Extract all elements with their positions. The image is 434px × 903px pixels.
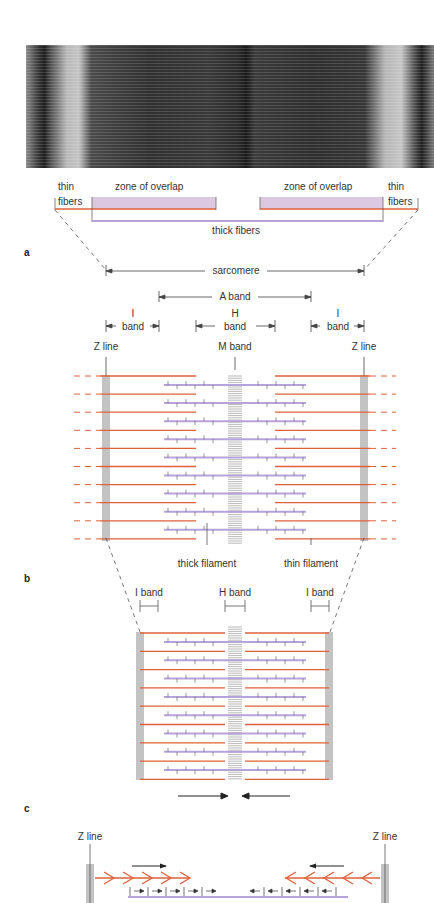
label-c-i-band-right: I band — [306, 587, 334, 598]
label-i-band-left-1: I — [132, 308, 135, 319]
label-thin-fibers-left-1: thin — [58, 181, 74, 192]
label-i-band-left-2: band — [122, 321, 144, 332]
label-d-z-line-left: Z line — [78, 831, 102, 842]
panel-letter-c: c — [24, 803, 30, 814]
label-z-line-right: Z line — [352, 341, 376, 352]
label-thick-fibers: thick fibers — [212, 225, 260, 236]
label-sarcomere: sarcomere — [212, 265, 259, 276]
label-thin-fibers-right-1: thin — [388, 181, 404, 192]
panel-letter-b: b — [24, 573, 30, 584]
label-m-band: M band — [218, 341, 251, 352]
label-a-band: A band — [219, 291, 250, 302]
label-zone-of-overlap-left: zone of overlap — [115, 181, 183, 192]
panel-d — [86, 844, 389, 903]
contraction-arrows — [178, 793, 290, 799]
label-thick-filament: thick filament — [178, 558, 236, 569]
label-c-i-band-left: I band — [135, 587, 163, 598]
label-h-band-2: band — [224, 321, 246, 332]
label-i-band-right-1: I — [337, 308, 340, 319]
label-c-h-band: H band — [219, 587, 251, 598]
label-thin-fibers-left-2: fibers — [58, 196, 82, 207]
sarcomere-figure: a b c thin fibers zone of overlap zone o… — [0, 0, 434, 903]
label-thin-filament: thin filament — [284, 558, 338, 569]
label-z-line-left: Z line — [94, 341, 118, 352]
panel-c-filaments — [136, 627, 333, 779]
label-d-z-line-right: Z line — [373, 831, 397, 842]
label-h-band-1: H — [231, 308, 238, 319]
diagram-graphics — [0, 0, 434, 903]
label-i-band-right-2: band — [327, 321, 349, 332]
panel-letter-a: a — [24, 247, 30, 258]
label-zone-of-overlap-right: zone of overlap — [284, 181, 352, 192]
label-thin-fibers-right-2: fibers — [388, 196, 412, 207]
panel-b-filaments — [74, 376, 396, 543]
